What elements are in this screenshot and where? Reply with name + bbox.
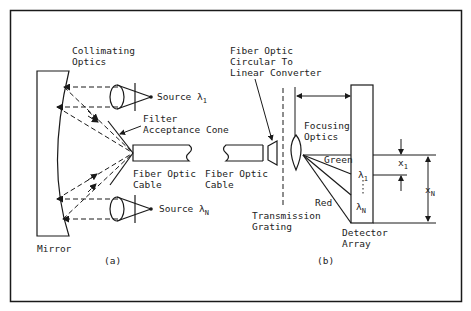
mirror-shape xyxy=(37,71,69,236)
reflect-ray-1 xyxy=(64,87,133,153)
fiber-cable-a-label-1: Fiber Optic xyxy=(133,168,196,179)
reflect-ray-2 xyxy=(57,107,133,153)
source-1-label: Source λ1 xyxy=(157,91,207,105)
lambda-1-label: λ1 xyxy=(358,169,368,183)
focusing-lens xyxy=(291,135,301,170)
mirror-label: Mirror xyxy=(37,243,72,254)
xn-label: xN xyxy=(425,184,435,198)
collimating-optics-label-1: Collimating xyxy=(72,45,135,56)
fiber-cable-a-label-2: Cable xyxy=(133,179,162,190)
collimating-optics-label-2: Optics xyxy=(72,56,106,67)
source-1-point xyxy=(149,95,153,99)
panel-a-caption: (a) xyxy=(104,255,121,266)
red-label: Red xyxy=(315,197,332,208)
panel-b-caption: (b) xyxy=(317,255,334,266)
detector-label-2: Array xyxy=(342,238,371,249)
fiber-cable-b xyxy=(224,145,264,161)
spectrometer-diagram: Collimating Optics Source λ1 Filter Acce… xyxy=(0,0,471,311)
green-label: Green xyxy=(324,154,353,165)
panel-b: Fiber Optic Circular To Linear Converter… xyxy=(205,45,436,266)
acceptance-cone-lower xyxy=(110,153,133,185)
focusing-optics-label-1: Focusing xyxy=(304,120,350,131)
panel-a: Collimating Optics Source λ1 Filter Acce… xyxy=(37,45,229,266)
source-n-label: Source λN xyxy=(159,203,209,217)
detector-label-1: Detector xyxy=(342,227,388,238)
fiber-cable-a xyxy=(133,145,192,161)
converter-label-1: Fiber Optic xyxy=(230,45,293,56)
fiber-cable-b-label-1: Fiber Optic xyxy=(205,168,268,179)
grating-label-1: Transmission xyxy=(252,210,321,221)
focusing-optics-label-2: Optics xyxy=(304,131,338,142)
source-n-point xyxy=(149,207,153,211)
detector-array xyxy=(351,85,373,223)
fiber-cable-b-label-2: Cable xyxy=(205,179,234,190)
filter-label-1: Filter xyxy=(143,113,178,124)
collimating-lens-n xyxy=(110,197,124,221)
acceptance-cone-upper xyxy=(108,121,133,153)
lambda-n-label: λN xyxy=(356,201,366,215)
collimating-lens-1 xyxy=(110,85,124,109)
circular-to-linear-converter xyxy=(268,141,277,165)
x1-label: x1 xyxy=(398,157,408,171)
filter-label-2: Acceptance Cone xyxy=(143,124,229,135)
converter-pointer xyxy=(255,79,272,140)
converter-label-3: Linear Converter xyxy=(230,67,322,78)
converter-label-2: Circular To xyxy=(230,56,293,67)
filter-pointer xyxy=(120,126,141,134)
grating-label-2: Grating xyxy=(252,221,292,232)
